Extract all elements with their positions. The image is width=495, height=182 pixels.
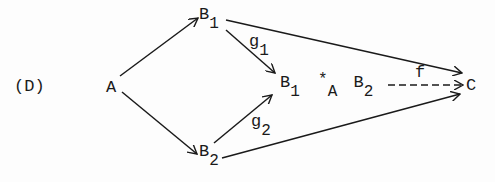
- g1-base: g: [249, 32, 259, 51]
- node-b2-base: B: [199, 142, 209, 161]
- diagram-label: (D): [14, 78, 45, 95]
- node-b1-sub: 1: [209, 15, 219, 33]
- edge-label-f: f: [415, 64, 425, 81]
- g2-base: g: [251, 112, 261, 131]
- node-pushout: B1 *A B2: [280, 74, 373, 91]
- node-b2-sub: 2: [209, 152, 219, 170]
- g2-sub: 2: [261, 122, 271, 140]
- node-a: A: [106, 79, 116, 96]
- node-c: C: [466, 77, 476, 94]
- node-b2: B2: [199, 143, 219, 160]
- edge-label-g1: g1: [249, 33, 269, 50]
- pushout-operator: *: [318, 71, 328, 89]
- edge-label-g2: g2: [251, 113, 271, 130]
- arrow-a-to-b1: [120, 18, 198, 76]
- g1-sub: 1: [259, 42, 269, 60]
- pushout-right-base: B: [353, 73, 363, 92]
- arrow-a-to-b2: [122, 92, 197, 154]
- node-b1-base: B: [199, 5, 209, 24]
- pushout-operator-sub: A: [328, 83, 338, 101]
- pushout-diagram: (D) A B1 B2 B1 *A B2 C g1 g2 f: [0, 0, 495, 182]
- diagram-arrows: [0, 0, 495, 182]
- pushout-left-base: B: [280, 73, 290, 92]
- node-b1: B1: [199, 6, 219, 23]
- pushout-right-sub: 2: [364, 83, 374, 101]
- pushout-left-sub: 1: [290, 83, 300, 101]
